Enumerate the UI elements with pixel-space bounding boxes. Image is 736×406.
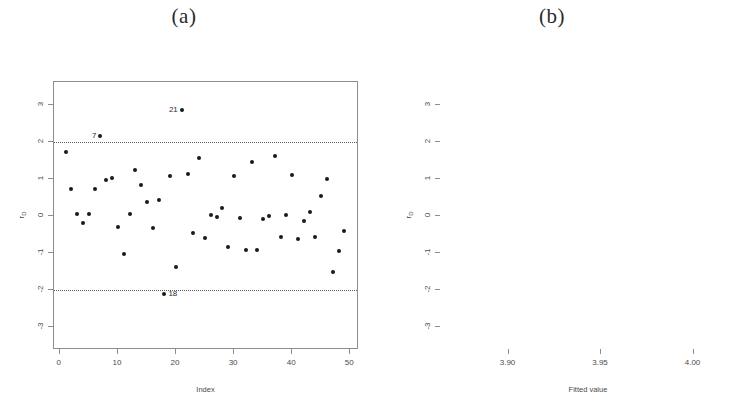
y-tick — [435, 178, 440, 179]
data-point — [139, 183, 143, 187]
x-tick — [59, 349, 60, 354]
point-label-21: 21 — [169, 106, 182, 114]
data-point — [191, 231, 195, 235]
data-point — [197, 156, 201, 160]
data-point — [302, 219, 306, 223]
y-tick-label: 3 — [36, 102, 45, 106]
data-point — [261, 217, 265, 221]
point-label-18: 18 — [164, 290, 177, 298]
data-point — [319, 194, 323, 198]
data-point — [244, 248, 248, 252]
x-tick — [508, 349, 509, 354]
x-tick — [233, 349, 234, 354]
data-point — [255, 248, 259, 252]
y-tick — [435, 252, 440, 253]
x-tick-label: 10 — [112, 358, 121, 367]
y-tick — [48, 141, 53, 142]
x-tick — [600, 349, 601, 354]
data-point — [226, 245, 230, 249]
y-axis-title: rD — [17, 211, 26, 218]
y-tick — [48, 104, 53, 105]
panel-a: (a) 71821 010203040503210-1-2-3IndexrD — [0, 0, 368, 406]
y-tick — [435, 289, 440, 290]
x-tick-label: 20 — [171, 358, 180, 367]
data-point — [104, 178, 108, 182]
data-point — [69, 187, 73, 191]
panel-a-plot-area: 71821 — [53, 81, 358, 349]
x-tick — [291, 349, 292, 354]
y-tick-label: 1 — [36, 176, 45, 180]
data-point — [128, 212, 132, 216]
x-tick-label: 50 — [345, 358, 354, 367]
y-tick-label: 3 — [423, 102, 432, 106]
x-tick — [175, 349, 176, 354]
y-tick-label: -2 — [36, 285, 45, 292]
data-point — [284, 213, 288, 217]
data-point — [232, 174, 236, 178]
data-point — [250, 160, 254, 164]
data-point — [81, 221, 85, 225]
y-tick — [48, 289, 53, 290]
y-tick — [48, 178, 53, 179]
y-tick-label: -3 — [36, 322, 45, 329]
figure-container: (a) 71821 010203040503210-1-2-3IndexrD (… — [0, 0, 736, 406]
data-point — [209, 213, 213, 217]
data-point — [267, 214, 271, 218]
y-tick-label: 2 — [36, 139, 45, 143]
x-tick — [349, 349, 350, 354]
y-tick-label: 1 — [423, 176, 432, 180]
y-tick — [48, 252, 53, 253]
x-tick — [117, 349, 118, 354]
data-point — [116, 225, 120, 229]
y-tick-label: -2 — [423, 285, 432, 292]
point-label-7: 7 — [92, 132, 100, 140]
data-point — [75, 212, 79, 216]
reference-line-lower — [54, 290, 357, 291]
data-point — [157, 198, 161, 202]
data-point — [64, 150, 68, 154]
y-tick-label: 2 — [423, 139, 432, 143]
panel-a-plot-inner: 71821 — [54, 82, 357, 348]
data-point — [168, 174, 172, 178]
data-point — [342, 229, 346, 233]
y-tick — [48, 326, 53, 327]
data-point — [145, 200, 149, 204]
y-tick-label: -1 — [423, 248, 432, 255]
data-point — [122, 252, 126, 256]
data-point — [87, 212, 91, 216]
data-point — [174, 265, 178, 269]
y-tick-label: 0 — [423, 213, 432, 217]
panel-b-title: (b) — [368, 4, 736, 29]
x-tick-label: 3.95 — [592, 358, 608, 367]
y-tick — [435, 326, 440, 327]
x-axis-title: Index — [196, 385, 214, 394]
panel-a-title: (a) — [0, 4, 368, 29]
data-point — [290, 173, 294, 177]
panel-b: (b) 3.903.954.003210-1-2-3Fitted valuerD — [368, 0, 736, 406]
x-tick-label: 0 — [57, 358, 61, 367]
data-point — [203, 236, 207, 240]
y-tick — [48, 215, 53, 216]
data-point — [279, 235, 283, 239]
y-axis-title: rD — [404, 211, 413, 218]
y-tick — [435, 215, 440, 216]
reference-line-upper — [54, 142, 357, 143]
y-tick — [435, 141, 440, 142]
data-point — [151, 226, 155, 230]
x-tick-label: 40 — [287, 358, 296, 367]
y-tick-label: -1 — [36, 248, 45, 255]
x-tick-label: 3.90 — [500, 358, 516, 367]
x-tick — [693, 349, 694, 354]
data-point — [296, 237, 300, 241]
data-point — [220, 206, 224, 210]
y-tick-label: 0 — [36, 213, 45, 217]
x-axis-title: Fitted value — [569, 385, 608, 394]
data-point — [325, 177, 329, 181]
data-point — [238, 216, 242, 220]
y-tick-label: -3 — [423, 322, 432, 329]
y-tick — [435, 104, 440, 105]
data-point — [93, 187, 97, 191]
data-point — [308, 210, 312, 214]
data-point — [273, 154, 277, 158]
x-tick-label: 4.00 — [685, 358, 701, 367]
